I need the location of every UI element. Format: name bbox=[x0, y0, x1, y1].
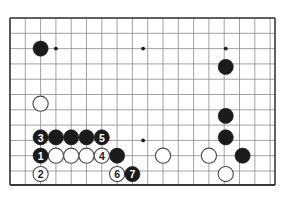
black-stone-row8-c4[interactable] bbox=[64, 130, 79, 145]
go-board-figure: 1234567 bbox=[0, 0, 285, 202]
black-stone-right-r9-disc[interactable] bbox=[235, 148, 250, 163]
white-stone-row9-c4[interactable] bbox=[64, 148, 79, 163]
black-stone-row8-c4-disc[interactable] bbox=[64, 130, 79, 145]
move-stone-6[interactable]: 6 bbox=[110, 166, 125, 181]
move-stone-1-label: 1 bbox=[38, 150, 44, 162]
move-stone-5[interactable]: 5 bbox=[94, 130, 109, 145]
black-stone-upper-left[interactable] bbox=[33, 41, 48, 56]
move-stone-5-label: 5 bbox=[99, 132, 105, 144]
white-stone-row9-c3-disc[interactable] bbox=[48, 148, 63, 163]
star-point-upper-right-icon bbox=[224, 47, 228, 51]
white-stone-bottom-c13[interactable] bbox=[201, 148, 216, 163]
black-stone-row8-c5-disc[interactable] bbox=[79, 130, 94, 145]
black-stone-row8-c3[interactable] bbox=[48, 130, 63, 145]
white-stone-row9-c3[interactable] bbox=[48, 148, 63, 163]
black-stone-upper-left-disc[interactable] bbox=[33, 41, 48, 56]
black-stone-right-r9[interactable] bbox=[235, 148, 250, 163]
white-stone-row9-c4-disc[interactable] bbox=[64, 148, 79, 163]
white-stone-right-r10[interactable] bbox=[218, 166, 233, 181]
black-stone-right-r3-disc[interactable] bbox=[218, 59, 233, 74]
black-stone-right-r8[interactable] bbox=[218, 130, 233, 145]
star-point-upper-center-icon bbox=[141, 47, 145, 51]
black-stone-row9-c7[interactable] bbox=[110, 148, 125, 163]
black-stone-right-r6-disc[interactable] bbox=[218, 108, 233, 123]
move-stone-7[interactable]: 7 bbox=[125, 166, 140, 181]
move-stone-2[interactable]: 2 bbox=[33, 166, 48, 181]
move-stone-6-label: 6 bbox=[114, 168, 120, 180]
move-stone-3[interactable]: 3 bbox=[33, 130, 48, 145]
move-stone-7-label: 7 bbox=[129, 168, 135, 180]
go-board-canvas[interactable]: 1234567 bbox=[0, 0, 285, 202]
black-stone-right-r3[interactable] bbox=[218, 59, 233, 74]
black-stone-row8-c5[interactable] bbox=[79, 130, 94, 145]
white-stone-left-side-disc[interactable] bbox=[33, 96, 48, 111]
white-stone-bottom-c13-disc[interactable] bbox=[201, 148, 216, 163]
white-stone-left-side[interactable] bbox=[33, 96, 48, 111]
move-stone-4[interactable]: 4 bbox=[94, 148, 109, 163]
white-stone-bottom-c10[interactable] bbox=[155, 148, 170, 163]
black-stone-row9-c7-disc[interactable] bbox=[110, 148, 125, 163]
black-stone-right-r6[interactable] bbox=[218, 108, 233, 123]
white-stone-row9-c5[interactable] bbox=[79, 148, 94, 163]
star-point-upper-left-icon bbox=[54, 47, 58, 51]
move-stone-4-label: 4 bbox=[99, 150, 105, 162]
black-stone-right-r8-disc[interactable] bbox=[218, 130, 233, 145]
move-stone-2-label: 2 bbox=[38, 168, 44, 180]
black-stone-row8-c3-disc[interactable] bbox=[48, 130, 63, 145]
move-stone-3-label: 3 bbox=[38, 132, 44, 144]
white-stone-bottom-c10-disc[interactable] bbox=[155, 148, 170, 163]
star-point-lower-center-icon bbox=[141, 139, 145, 143]
move-stone-1[interactable]: 1 bbox=[33, 148, 48, 163]
white-stone-row9-c5-disc[interactable] bbox=[79, 148, 94, 163]
white-stone-right-r10-disc[interactable] bbox=[218, 166, 233, 181]
